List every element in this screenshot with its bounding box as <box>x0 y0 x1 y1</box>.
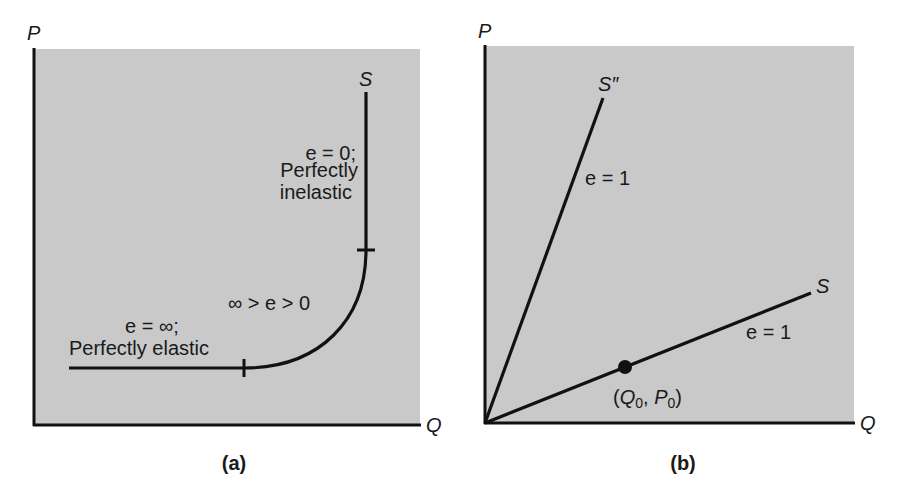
panel-b-x-axis-label: Q <box>860 412 876 434</box>
panel-b-steep-curve-label: S″ <box>598 73 619 95</box>
panel-b-point-marker <box>618 360 632 374</box>
figure-canvas: P Q S e = 0; Perfectly inelastic ∞ > e >… <box>0 0 900 493</box>
panel-b-y-axis-label: P <box>478 20 492 42</box>
panel-a-elastic-text: Perfectly elastic <box>69 337 209 359</box>
panel-b-flat-e-label: e = 1 <box>746 321 791 343</box>
panel-b-caption: (b) <box>670 452 696 474</box>
panel-a-caption: (a) <box>222 452 246 474</box>
panel-a: P Q S e = 0; Perfectly inelastic ∞ > e >… <box>27 22 442 474</box>
panel-b-plot-area <box>485 46 854 423</box>
panel-a-elastic-eq: e = ∞; <box>125 315 179 337</box>
panel-b: P Q S″ e = 1 S e = 1 (Q0, P0) (b) <box>478 20 876 474</box>
panel-a-mid-label: ∞ > e > 0 <box>228 292 310 314</box>
panel-a-x-axis-label: Q <box>426 414 442 436</box>
panel-a-y-axis-label: P <box>27 22 41 44</box>
panel-a-inelastic-text-2: inelastic <box>280 181 352 203</box>
panel-a-curve-label: S <box>359 68 373 90</box>
panel-b-steep-e-label: e = 1 <box>585 167 630 189</box>
panel-a-inelastic-text: Perfectly <box>280 159 358 181</box>
panel-b-flat-curve-label: S <box>816 275 830 297</box>
